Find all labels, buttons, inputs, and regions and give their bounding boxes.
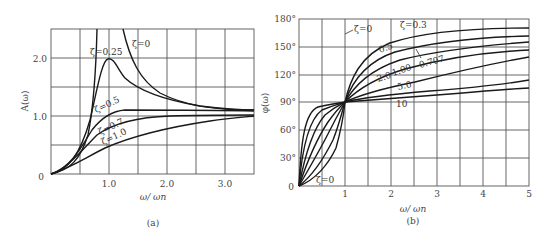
x-tick-0: 0 xyxy=(38,172,44,182)
phi-x-tick-1: 1 xyxy=(342,189,348,199)
phi-x-tick-0: 0 xyxy=(288,182,294,192)
label-phi-zeta-0.3: ζ=0.3 xyxy=(400,20,427,30)
label-zeta-0: ζ=0 xyxy=(132,39,150,49)
phi-y-tick-30: 30° xyxy=(280,153,296,163)
phi-y-tick-90: 90° xyxy=(280,97,296,107)
phi-x-tick-3: 3 xyxy=(434,189,440,199)
figure: ζ=0.25 ζ=0 ζ=0.5 ζ=0.7 ζ=1.0 0 1.0 2.0 3… xyxy=(0,0,548,242)
x-tick-2: 2.0 xyxy=(160,179,175,189)
caption-a: (a) xyxy=(147,218,159,228)
phi-y-tick-60: 60° xyxy=(280,125,296,135)
phi-x-tick-4: 4 xyxy=(480,189,486,199)
label-phi-zeta-0-top: ζ=0 xyxy=(354,24,372,34)
amplitude-chart: ζ=0.25 ζ=0 ζ=0.5 ζ=0.7 ζ=1.0 0 1.0 2.0 3… xyxy=(20,29,254,228)
phi-y-tick-120: 120° xyxy=(274,70,296,80)
phi-x-tick-5: 5 xyxy=(526,189,532,199)
y-tick-2: 2.0 xyxy=(33,54,48,64)
phi-y-tick-180: 180° xyxy=(274,14,296,24)
label-phi-2.0: 2.0 xyxy=(376,70,393,84)
y-axis-label: A(ω) xyxy=(20,91,30,113)
phi-x-tick-2: 2 xyxy=(388,189,394,199)
phi-y-axis-label: φ(ω) xyxy=(260,93,270,114)
y-tick-1: 1.0 xyxy=(33,112,48,122)
amplitude-curves xyxy=(51,29,254,174)
label-phi-10: 10 xyxy=(396,99,408,109)
x-tick-3: 3.0 xyxy=(218,179,233,189)
label-phi-5.0: 5.0 xyxy=(396,79,412,92)
phi-x-axis-label: ω/ ωn xyxy=(400,204,427,214)
x-axis-label: ω/ ωn xyxy=(140,192,167,202)
x-tick-1: 1.0 xyxy=(102,179,117,189)
phase-chart: ζ=0 ζ=0.3 0.5 0.707 2.0 1.00 5.0 10 ζ=0 … xyxy=(260,14,532,226)
phase-grid xyxy=(299,19,529,186)
label-phi-1.00: 1.00 xyxy=(391,62,413,78)
caption-b: (b) xyxy=(407,216,420,226)
leader-zeta-0-top xyxy=(345,30,353,34)
label-zeta-0.25: ζ=0.25 xyxy=(90,47,123,57)
label-phi-zeta-0-bottom: ζ=0 xyxy=(316,175,334,185)
label-phi-0.707: 0.707 xyxy=(418,54,446,70)
phi-y-tick-150: 150° xyxy=(274,42,296,52)
